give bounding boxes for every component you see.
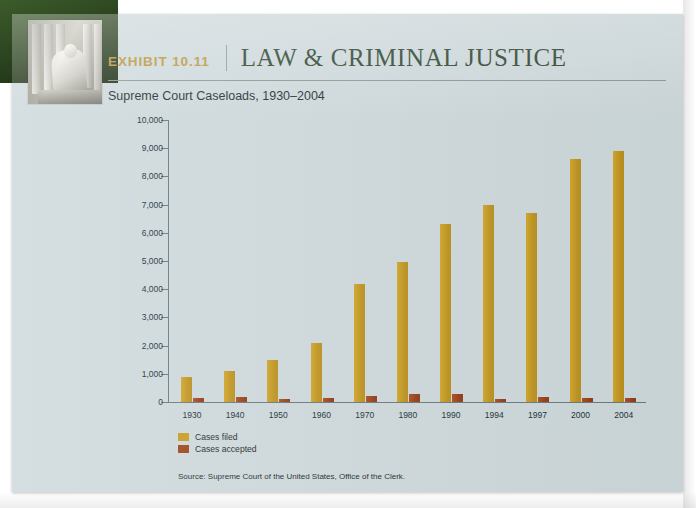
x-axis-tick-label: 1940 xyxy=(226,410,245,420)
bar-cases-accepted xyxy=(366,396,377,402)
bar-cases-accepted xyxy=(538,397,549,402)
bar-cases-filed xyxy=(354,284,365,402)
bar-cases-accepted xyxy=(582,398,593,402)
bar-cases-accepted xyxy=(452,394,463,402)
y-axis-tick-label: 8,000 xyxy=(142,171,163,181)
y-axis-tick-label: 4,000 xyxy=(142,284,163,294)
x-axis-tick-label: 1960 xyxy=(312,410,331,420)
bar-cases-accepted xyxy=(495,399,506,402)
bar-cases-accepted xyxy=(193,398,204,402)
bar-cases-filed xyxy=(570,159,581,402)
x-axis-tick-label: 2000 xyxy=(571,410,590,420)
x-axis-tick-label: 1980 xyxy=(398,410,417,420)
bar-cases-accepted xyxy=(409,394,420,402)
plot-area: 01,0002,0003,0004,0005,0006,0007,0008,00… xyxy=(168,120,643,402)
bar-chart: 01,0002,0003,0004,0005,0006,0007,0008,00… xyxy=(12,14,683,492)
bar-cases-accepted xyxy=(323,398,334,402)
legend-item: Cases accepted xyxy=(178,443,257,455)
chart-legend: Cases filedCases accepted xyxy=(178,431,257,455)
y-axis-tick-label: 7,000 xyxy=(142,200,163,210)
x-axis-tick-label: 1930 xyxy=(182,410,201,420)
x-axis-tick-label: 1950 xyxy=(269,410,288,420)
bar-cases-accepted xyxy=(279,399,290,402)
legend-item: Cases filed xyxy=(178,431,257,443)
page-edge-shadow-right xyxy=(683,0,696,508)
y-axis-tick-label: 9,000 xyxy=(142,143,163,153)
legend-label: Cases filed xyxy=(195,432,238,442)
y-axis-tick-label: 0 xyxy=(158,397,163,407)
bar-cases-accepted xyxy=(236,397,247,402)
bar-cases-filed xyxy=(526,213,537,402)
scanned-page-background: EXHIBIT 10.11 LAW & CRIMINAL JUSTICE Sup… xyxy=(0,0,696,508)
legend-label: Cases accepted xyxy=(195,444,257,454)
bar-cases-filed xyxy=(483,205,494,402)
page-edge-shadow-bottom xyxy=(0,492,696,508)
bar-cases-filed xyxy=(613,151,624,402)
y-axis-tick-label: 2,000 xyxy=(142,341,163,351)
y-axis-tick-label: 1,000 xyxy=(142,369,163,379)
x-axis-tick-label: 1970 xyxy=(355,410,374,420)
y-axis-tick-label: 3,000 xyxy=(142,312,163,322)
legend-swatch-cases-filed xyxy=(178,433,189,441)
y-axis-tick-label: 5,000 xyxy=(142,256,163,266)
x-axis-tick-label: 1990 xyxy=(442,410,461,420)
x-axis-tick-label: 1994 xyxy=(485,410,504,420)
bar-cases-filed xyxy=(311,343,322,402)
legend-swatch-cases-accepted xyxy=(178,445,189,453)
x-axis-line xyxy=(168,402,646,403)
bar-cases-filed xyxy=(181,377,192,402)
bar-cases-filed xyxy=(397,262,408,402)
bar-cases-accepted xyxy=(625,398,636,402)
bar-cases-filed xyxy=(440,224,451,402)
y-axis-tick-label: 10,000 xyxy=(137,115,163,125)
source-note: Source: Supreme Court of the United Stat… xyxy=(178,472,405,481)
bar-cases-filed xyxy=(267,360,278,402)
x-axis-tick-label: 1997 xyxy=(528,410,547,420)
y-axis-tick-label: 6,000 xyxy=(142,228,163,238)
bar-cases-filed xyxy=(224,371,235,402)
exhibit-card: EXHIBIT 10.11 LAW & CRIMINAL JUSTICE Sup… xyxy=(12,14,683,492)
x-axis-tick-label: 2004 xyxy=(614,410,633,420)
